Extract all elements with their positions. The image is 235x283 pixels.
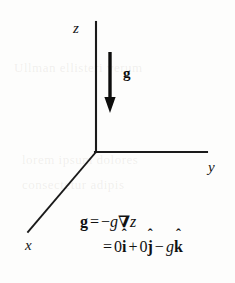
equation-block: g=−g∇z =0ˆi+0ˆj−gˆk: [0, 210, 235, 260]
eq1-equals: =: [88, 213, 101, 230]
gravity-vector-arrowhead: [104, 97, 115, 113]
unit-vector-k: ˆk: [174, 235, 183, 260]
eq1-z: z: [130, 213, 136, 230]
eq1-g-scalar: g: [110, 213, 118, 230]
eq2-equals: =: [101, 238, 114, 255]
eq1-minus: −: [101, 213, 110, 230]
eq2-plus: +: [126, 238, 139, 255]
eq2-minus: −: [153, 238, 166, 255]
eq2-zero-i: 0: [114, 238, 122, 255]
gravity-vector-label: g: [123, 66, 131, 81]
unit-vector-i: ˆi: [122, 235, 126, 260]
unit-vector-j: ˆj: [148, 235, 153, 260]
z-axis-label: z: [73, 21, 79, 36]
eq2-zero-j: 0: [140, 238, 148, 255]
gravity-vector-figure: Ullman ellisteri verum lorem ipsum dolor…: [0, 0, 235, 283]
nabla-icon: ∇: [118, 213, 130, 230]
equation-line-2: =0ˆi+0ˆj−gˆk: [101, 235, 235, 260]
equation-line-1: g=−g∇z: [80, 210, 235, 235]
eq2-g-scalar: g: [166, 238, 174, 255]
unit-vector-j-letter: j: [148, 238, 153, 255]
eq1-g-vector: g: [80, 213, 88, 230]
y-axis-label: y: [208, 160, 215, 175]
unit-vector-k-letter: k: [174, 238, 183, 255]
unit-vector-i-letter: i: [122, 238, 126, 255]
